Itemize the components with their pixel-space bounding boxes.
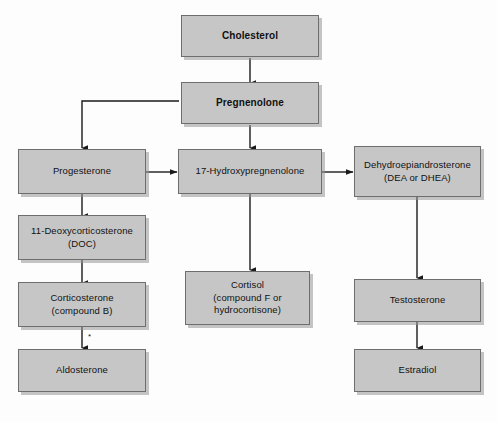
edge-pregnenolone-progesterone (82, 101, 179, 148)
node-cholesterol-label: Cholesterol (182, 30, 318, 43)
node-aldosterone[interactable]: Aldosterone (18, 349, 146, 392)
node-progesterone-label: Progesterone (19, 165, 145, 178)
node-corticosterone[interactable]: Corticosterone (compound B) (18, 282, 146, 327)
steroid-pathway-diagram: Cholesterol Pregnenolone Progesterone 17… (0, 0, 497, 422)
node-cortisol[interactable]: Cortisol (compound F or hydrocortisone) (185, 271, 310, 325)
node-estradiol[interactable]: Estradiol (354, 349, 481, 392)
node-11-deoxycorticosterone[interactable]: 11-Deoxycorticosterone (DOC) (18, 215, 146, 260)
node-pregnenolone[interactable]: Pregnenolone (181, 82, 319, 124)
node-11-deoxycorticosterone-label: 11-Deoxycorticosterone (DOC) (19, 225, 145, 250)
node-dehydroepiandrosterone-label: Dehydroepiandrosterone (DEA or DHEA) (355, 159, 480, 184)
node-dehydroepiandrosterone[interactable]: Dehydroepiandrosterone (DEA or DHEA) (354, 146, 481, 197)
aldosterone-footnote-marker: * (88, 333, 91, 341)
node-estradiol-label: Estradiol (355, 364, 480, 377)
node-testosterone-label: Testosterone (355, 294, 480, 307)
node-testosterone[interactable]: Testosterone (354, 279, 481, 322)
node-cholesterol[interactable]: Cholesterol (181, 15, 319, 57)
node-corticosterone-label: Corticosterone (compound B) (19, 292, 145, 317)
node-17-hydroxypregnenolone[interactable]: 17-Hydroxypregnenolone (178, 149, 322, 194)
node-cortisol-label: Cortisol (compound F or hydrocortisone) (186, 279, 309, 317)
node-aldosterone-label: Aldosterone (19, 364, 145, 377)
node-progesterone[interactable]: Progesterone (18, 149, 146, 194)
node-17-hydroxypregnenolone-label: 17-Hydroxypregnenolone (179, 165, 321, 178)
node-pregnenolone-label: Pregnenolone (182, 97, 318, 110)
